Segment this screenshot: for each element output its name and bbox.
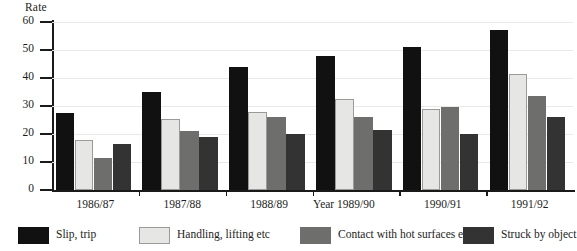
bar <box>142 92 161 190</box>
x-axis-tick-label: 1988/89 <box>226 198 313 210</box>
x-axis-tick-label: 1990/91 <box>399 198 486 210</box>
y-axis-tick-label: 30 <box>6 98 34 110</box>
y-axis-tick-label: 60 <box>6 14 34 26</box>
chart-legend: Slip, tripHandling, lifting etcContact w… <box>0 222 577 251</box>
bar <box>248 112 267 190</box>
bar <box>373 130 392 190</box>
legend-swatch-icon <box>139 227 170 244</box>
bar <box>113 144 132 190</box>
x-axis-tick <box>226 190 228 196</box>
bar <box>229 67 248 190</box>
bar <box>441 107 460 190</box>
bar-group <box>226 22 313 190</box>
y-axis-tick <box>40 133 52 135</box>
bar <box>161 119 180 190</box>
bar <box>403 47 422 190</box>
bar <box>528 96 547 190</box>
bar-group <box>486 22 573 190</box>
legend-swatch-icon <box>18 227 49 244</box>
y-axis-tick-label: 50 <box>6 42 34 54</box>
bar-group <box>52 22 139 190</box>
bar <box>75 140 94 190</box>
x-axis-tick-label: 1986/87 <box>52 198 139 210</box>
bar <box>490 30 509 190</box>
x-axis-tick-label: 1991/92 <box>486 198 573 210</box>
legend-label: Struck by object <box>501 228 576 240</box>
y-axis-tick <box>40 21 52 23</box>
bar <box>335 99 354 190</box>
x-axis-tick <box>139 190 141 196</box>
x-axis-tick <box>486 190 488 196</box>
bar <box>94 158 113 190</box>
y-axis-tick <box>40 49 52 51</box>
bar <box>199 137 218 190</box>
bar-group <box>139 22 226 190</box>
bar-group <box>313 22 400 190</box>
bar <box>316 56 335 190</box>
y-axis-tick-label: 40 <box>6 70 34 82</box>
plot-area <box>52 22 573 190</box>
legend-label: Contact with hot surfaces etc <box>338 228 472 240</box>
legend-swatch-icon <box>300 227 331 244</box>
bar <box>267 117 286 190</box>
y-axis-tick-label: 20 <box>6 126 34 138</box>
bar-chart: Rate 0102030405060 1986/871987/881988/89… <box>0 0 577 251</box>
y-axis-tick-label: 0 <box>6 182 34 194</box>
legend-label: Handling, lifting etc <box>177 228 270 240</box>
y-axis-tick-label: 10 <box>6 154 34 166</box>
y-axis-tick <box>40 189 52 191</box>
bar <box>460 134 479 190</box>
x-axis-tick <box>313 190 315 196</box>
x-axis-title: Year <box>313 198 334 210</box>
legend-swatch-icon <box>463 227 494 244</box>
bar <box>422 109 441 190</box>
bar-group <box>399 22 486 190</box>
y-axis-tick <box>40 161 52 163</box>
bar <box>509 74 528 190</box>
y-axis-title: Rate <box>25 1 47 13</box>
y-axis-tick <box>40 105 52 107</box>
x-axis-tick <box>399 190 401 196</box>
bar <box>547 117 566 190</box>
bar <box>354 117 373 190</box>
bar <box>286 134 305 190</box>
bar <box>180 131 199 190</box>
legend-label: Slip, trip <box>56 228 96 240</box>
bar <box>56 113 75 190</box>
x-axis-tick-label: 1987/88 <box>139 198 226 210</box>
y-axis-tick <box>40 77 52 79</box>
